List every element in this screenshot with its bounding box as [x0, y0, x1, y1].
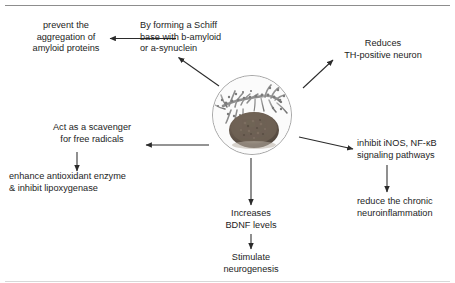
node-increases-bdnf: Increases BDNF levels — [210, 208, 292, 231]
node-reduce-neuroinflammation: reduce the chronic neuroinflammation — [357, 196, 453, 219]
node-schiff-base: By forming a Schiff base with b-amyloid … — [140, 20, 245, 55]
node-prevent-aggregation: prevent the aggregation of amyloid prote… — [16, 20, 116, 55]
node-antioxidant-enzyme: enhance antioxidant enzyme & inhibit lip… — [9, 171, 169, 194]
arrow-to-schiff-base — [179, 58, 220, 87]
arrow-to-inhibit-inos — [299, 137, 353, 149]
concept-diagram: prevent the aggregation of amyloid prote… — [0, 0, 455, 283]
node-inhibit-inos: inhibit iNOS, NF-κB signaling pathways — [357, 138, 453, 161]
node-scavenger: Act as a scavenger for free radicals — [38, 122, 146, 145]
node-stimulate-neurogenesis: Stimulate neurogenesis — [208, 252, 294, 275]
node-reduces-th-neuron: Reduces TH-positive neuron — [325, 38, 441, 61]
arrow-to-reduces-th-neuron — [303, 60, 333, 88]
